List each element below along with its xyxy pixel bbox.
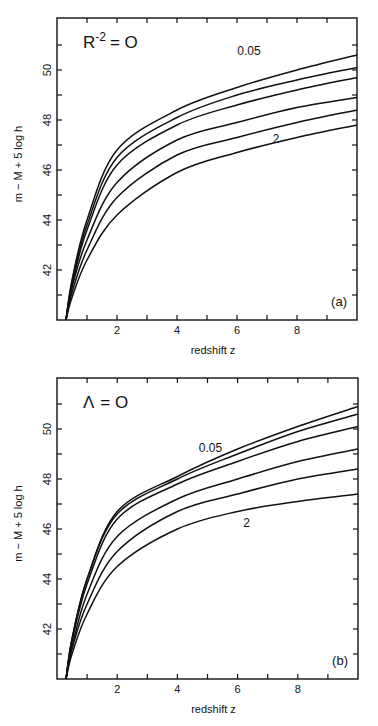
y-tick-label: 48 [41,114,53,126]
y-tick-label: 42 [41,623,53,635]
curve-2 [66,125,357,320]
x-ticks: 2468 [87,378,328,695]
x-tick-label: 4 [174,683,180,695]
y-tick-label: 48 [41,473,53,485]
x-tick-label: 8 [295,683,301,695]
curve-curve-5 [66,110,357,320]
curves [66,55,357,320]
x-tick-label: 6 [234,324,240,336]
x-tick-label: 6 [235,683,241,695]
curve-0.05 [66,55,357,320]
y-tick-label: 50 [41,423,53,435]
parameter-label: R-2= O [83,30,138,52]
y-tick-label: 42 [41,264,53,276]
y-axis-label: m − M + 5 log h [12,126,24,202]
curve-curve-3 [66,78,357,321]
x-axis-label: redshift z [191,703,236,715]
panel-label: (b) [332,653,348,668]
plot-frame [57,378,358,679]
curve-curve-4 [66,449,358,679]
annotation-0.05: 0.05 [237,44,261,58]
annotation-2: 2 [243,516,250,530]
plot-frame [57,18,357,320]
annotation-2: 2 [273,132,280,146]
parameter-symbol: R [83,33,95,52]
chart-panel-a: 2468 4244464850 R-2= O (a) 0.05 2 redshi… [12,18,357,356]
parameter-symbol: Λ [83,393,95,412]
annotation-0.05: 0.05 [199,441,223,455]
x-axis-label: redshift z [191,344,236,356]
parameter-value: = O [110,33,138,52]
y-tick-label: 46 [41,164,53,176]
y-tick-label: 44 [41,214,53,226]
chart-panel-b: 2468 4244464850 Λ= O (b) 0.05 2 redshift… [12,378,358,715]
panel-label: (a) [331,294,347,309]
x-tick-label: 2 [114,324,120,336]
x-tick-label: 2 [114,683,120,695]
parameter-value: = O [100,393,128,412]
curve-curve-4 [66,98,357,321]
figure: 2468 4244464850 R-2= O (a) 0.05 2 redshi… [0,0,378,726]
y-tick-label: 50 [41,64,53,76]
curve-curve-2 [66,68,357,321]
parameter-exponent: -2 [95,30,106,44]
x-tick-label: 8 [294,324,300,336]
y-tick-label: 46 [41,523,53,535]
y-axis-label: m − M + 5 log h [12,485,24,561]
parameter-label: Λ= O [83,393,128,412]
y-tick-label: 44 [41,573,53,585]
x-tick-label: 4 [174,324,180,336]
